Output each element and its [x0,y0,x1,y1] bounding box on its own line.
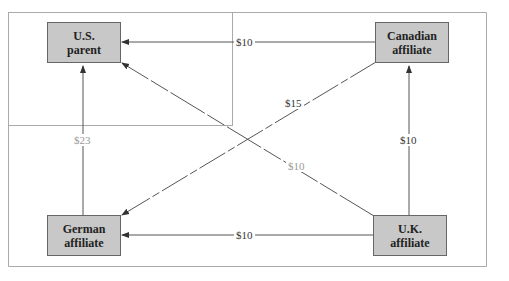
node-label-line2: parent [67,43,101,57]
edge-label-uk-canada: $10 [398,134,419,146]
node-label-line2: affiliate [392,43,431,57]
node-label-line1: U.S. [73,29,94,43]
edge-label-canada-germany: $15 [283,97,304,109]
edge-label-canada-us: $10 [234,36,255,48]
node-us-parent: U.S. parent [47,22,121,63]
node-canadian-affiliate: Canadian affiliate [375,22,449,63]
node-uk-affiliate: U.K. affiliate [373,215,447,256]
edge-label-germany-us: $23 [72,134,93,146]
node-label-line1: German [63,222,106,236]
node-label-line2: affiliate [390,236,429,250]
edge-label-uk-germany: $10 [234,229,255,241]
node-label-line2: affiliate [64,236,103,250]
node-label-line1: Canadian [387,29,437,43]
edge-label-uk-us: $10 [286,160,307,172]
node-german-affiliate: German affiliate [47,215,121,256]
node-label-line1: U.K. [398,222,422,236]
edge-canada-germany [122,62,376,215]
